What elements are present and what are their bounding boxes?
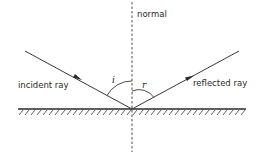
normal-label: normal <box>137 9 167 19</box>
angle-i-arc <box>107 81 132 96</box>
reflection-diagram: normal incident ray reflected ray i r <box>0 0 258 161</box>
incident-ray-label: incident ray <box>18 80 69 90</box>
angle-r-label: r <box>142 80 147 90</box>
reflected-ray-label: reflected ray <box>193 78 247 88</box>
angle-r-arc <box>132 90 154 98</box>
angle-i-label: i <box>112 75 115 85</box>
